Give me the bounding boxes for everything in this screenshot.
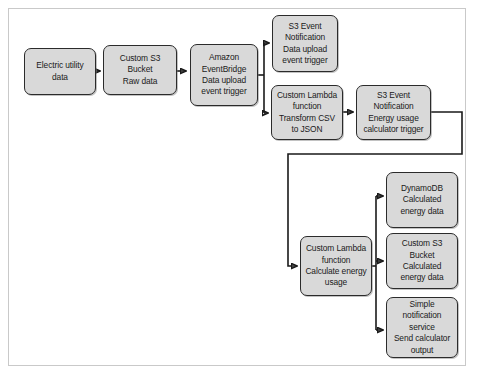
node-s3-event-notification-energy-calculator[interactable]: S3 Event Notification Energy usage calcu… [356, 85, 431, 140]
node-simple-notification-service[interactable]: Simple notification service Send calcula… [386, 297, 458, 358]
node-custom-lambda-transform-csv[interactable]: Custom Lambda function Transform CSV to … [271, 85, 343, 140]
node-amazon-eventbridge[interactable]: Amazon EventBridge Data upload event tri… [190, 44, 258, 106]
node-custom-lambda-calculate-energy[interactable]: Custom Lambda function Calculate energy … [300, 236, 372, 296]
diagram-canvas: Electric utility data Custom S3 Bucket R… [0, 0, 477, 379]
node-s3-event-notification-data-upload[interactable]: S3 Event Notification Data upload event … [272, 15, 338, 72]
node-electric-utility-data[interactable]: Electric utility data [24, 48, 96, 95]
node-dynamodb-calculated-energy-data[interactable]: DynamoDB Calculated energy data [386, 172, 458, 228]
node-custom-s3-bucket-calculated-energy-data[interactable]: Custom S3 Bucket Calculated energy data [386, 233, 458, 289]
node-custom-s3-bucket-raw-data[interactable]: Custom S3 Bucket Raw data [103, 45, 177, 95]
